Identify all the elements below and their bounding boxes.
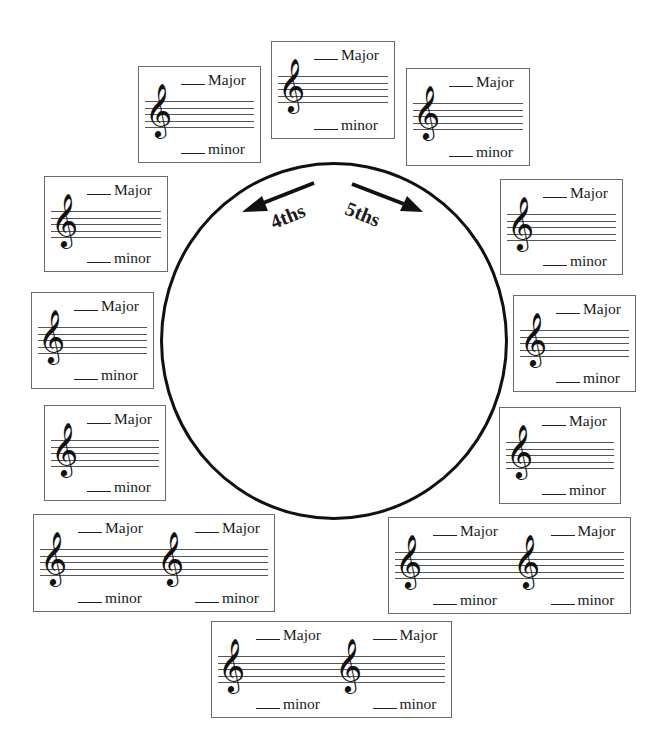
minor-key-answer[interactable]: minor (74, 366, 138, 384)
major-label: Major (400, 626, 438, 643)
major-label: Major (341, 46, 379, 63)
minor-label: minor (400, 695, 437, 712)
minor-key-answer[interactable]: minor (87, 478, 151, 496)
key-card-bottom-left: 𝄞Majorminor𝄞Majorminor (33, 514, 275, 612)
treble-clef-icon: 𝄞 (278, 62, 305, 108)
minor-key-answer[interactable]: minor (433, 591, 497, 609)
answer-blank[interactable] (542, 482, 566, 495)
answer-blank[interactable] (87, 182, 111, 195)
answer-blank[interactable] (449, 144, 473, 157)
answer-blank[interactable] (551, 523, 575, 536)
key-card-right-3: 𝄞Majorminor (499, 407, 621, 504)
major-key-answer[interactable]: Major (195, 519, 260, 537)
major-label: Major (283, 626, 321, 643)
answer-blank[interactable] (195, 520, 219, 533)
answer-blank[interactable] (314, 47, 338, 60)
staff-line (218, 663, 445, 664)
minor-key-answer[interactable]: minor (373, 695, 437, 713)
answer-blank[interactable] (181, 141, 205, 154)
major-key-answer[interactable]: Major (542, 412, 607, 430)
answer-blank[interactable] (373, 627, 397, 640)
staff-line (395, 578, 624, 579)
answer-blank[interactable] (542, 413, 566, 426)
minor-label: minor (476, 143, 513, 160)
major-key-answer[interactable]: Major (314, 46, 379, 64)
answer-blank[interactable] (551, 592, 575, 605)
major-key-answer[interactable]: Major (551, 522, 616, 540)
major-key-answer[interactable]: Major (74, 297, 139, 315)
staff-line (395, 565, 624, 566)
staff (395, 552, 624, 580)
staff-line (40, 549, 268, 550)
minor-label: minor (101, 366, 138, 383)
major-label: Major (208, 71, 246, 88)
minor-key-answer[interactable]: minor (543, 252, 607, 270)
answer-blank[interactable] (314, 117, 338, 130)
treble-clef-icon: 𝄞 (145, 87, 172, 133)
major-key-answer[interactable]: Major (433, 522, 498, 540)
major-key-answer[interactable]: Major (78, 519, 143, 537)
minor-key-answer[interactable]: minor (256, 695, 320, 713)
treble-clef-icon: 𝄞 (507, 200, 534, 246)
answer-blank[interactable] (87, 250, 111, 263)
answer-blank[interactable] (78, 520, 102, 533)
minor-label: minor (105, 589, 142, 606)
staff-line (218, 682, 445, 683)
staff-line (40, 556, 268, 557)
treble-clef-icon: 𝄞 (520, 316, 547, 362)
minor-key-answer[interactable]: minor (449, 143, 513, 161)
staff (218, 656, 445, 684)
treble-clef-icon: 𝄞 (413, 89, 440, 135)
treble-clef-icon: 𝄞 (51, 197, 78, 243)
answer-blank[interactable] (181, 72, 205, 85)
major-key-answer[interactable]: Major (87, 410, 152, 428)
treble-clef-icon: 𝄞 (513, 538, 540, 584)
staff-line (218, 656, 445, 657)
staff-line (395, 572, 624, 573)
major-label: Major (476, 73, 514, 90)
minor-key-answer[interactable]: minor (551, 591, 615, 609)
answer-blank[interactable] (74, 367, 98, 380)
minor-key-answer[interactable]: minor (195, 589, 259, 607)
answer-blank[interactable] (195, 590, 219, 603)
treble-clef-icon: 𝄞 (506, 428, 533, 474)
answer-blank[interactable] (74, 298, 98, 311)
answer-blank[interactable] (449, 74, 473, 87)
answer-blank[interactable] (543, 185, 567, 198)
major-key-answer[interactable]: Major (373, 626, 438, 644)
treble-clef-icon: 𝄞 (335, 642, 362, 688)
minor-key-answer[interactable]: minor (87, 249, 151, 267)
key-card-top-right: 𝄞Majorminor (406, 68, 530, 166)
staff-line (218, 676, 445, 677)
minor-label: minor (583, 369, 620, 386)
major-label: Major (569, 412, 607, 429)
key-card-top-left: 𝄞Majorminor (138, 66, 261, 163)
major-key-answer[interactable]: Major (256, 626, 321, 644)
minor-label: minor (283, 695, 320, 712)
major-key-answer[interactable]: Major (181, 71, 246, 89)
answer-blank[interactable] (556, 370, 580, 383)
answer-blank[interactable] (87, 411, 111, 424)
minor-key-answer[interactable]: minor (542, 481, 606, 499)
answer-blank[interactable] (543, 253, 567, 266)
major-label: Major (460, 522, 498, 539)
answer-blank[interactable] (433, 592, 457, 605)
staff-line (395, 552, 624, 553)
answer-blank[interactable] (556, 301, 580, 314)
answer-blank[interactable] (433, 523, 457, 536)
major-key-answer[interactable]: Major (449, 73, 514, 91)
minor-key-answer[interactable]: minor (556, 369, 620, 387)
answer-blank[interactable] (78, 590, 102, 603)
major-key-answer[interactable]: Major (556, 300, 621, 318)
major-key-answer[interactable]: Major (543, 184, 608, 202)
key-card-top: 𝄞Majorminor (271, 41, 395, 139)
answer-blank[interactable] (373, 696, 397, 709)
minor-key-answer[interactable]: minor (314, 116, 378, 134)
treble-clef-icon: 𝄞 (218, 642, 245, 688)
answer-blank[interactable] (256, 627, 280, 640)
answer-blank[interactable] (256, 696, 280, 709)
major-key-answer[interactable]: Major (87, 181, 152, 199)
minor-key-answer[interactable]: minor (78, 589, 142, 607)
minor-key-answer[interactable]: minor (181, 140, 245, 158)
answer-blank[interactable] (87, 479, 111, 492)
